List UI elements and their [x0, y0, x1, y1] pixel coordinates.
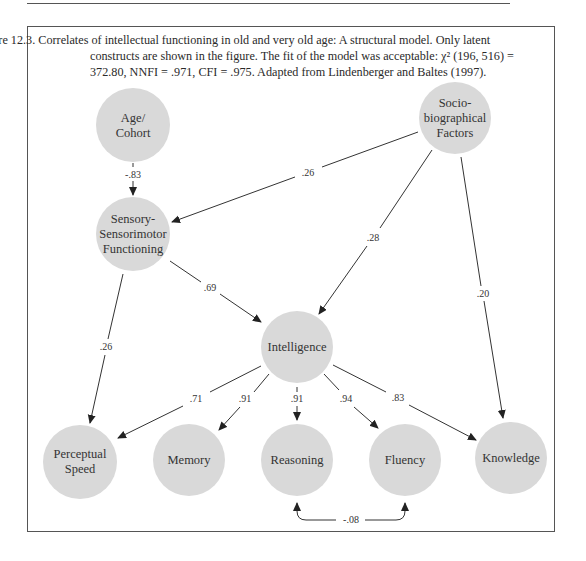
edge-label-intelligence-perceptual: .71: [190, 393, 203, 404]
svg-text:Reasoning: Reasoning: [271, 453, 325, 467]
edge-intelligence-reasoning: .91: [291, 387, 304, 420]
svg-text:Socio-: Socio-: [439, 96, 472, 110]
edge-label-intelligence-reasoning: .91: [291, 393, 304, 404]
edge-label-intelligence-fluency: .94: [340, 393, 353, 404]
edge-socio-knowledge: .20: [461, 157, 503, 418]
node-fluency: Fluency: [369, 424, 441, 496]
structural-model-diagram: -.83 .26 .28 .20 .69 .26: [0, 0, 586, 561]
svg-text:biographical: biographical: [424, 111, 487, 125]
node-knowledge: Knowledge: [475, 422, 547, 494]
node-reasoning: Reasoning: [261, 424, 333, 496]
edge-label-intelligence-memory: .91: [239, 393, 252, 404]
edge-label-age-sensory: -.83: [125, 169, 141, 180]
edge-socio-sensory: .26: [172, 132, 418, 222]
node-age-cohort: Age/ Cohort: [96, 88, 170, 162]
edge-socio-intelligence: .28: [319, 150, 432, 314]
svg-text:Memory: Memory: [167, 453, 211, 467]
node-intelligence: Intelligence: [261, 311, 333, 383]
svg-text:Age/: Age/: [121, 111, 146, 125]
edge-reasoning-fluency-covariance: -.08: [297, 503, 405, 525]
svg-text:Perceptual: Perceptual: [54, 447, 107, 461]
svg-text:Fluency: Fluency: [385, 453, 426, 467]
edge-label-socio-intelligence: .28: [367, 232, 380, 243]
svg-text:Factors: Factors: [437, 126, 474, 140]
svg-text:Cohort: Cohort: [116, 126, 151, 140]
svg-text:Sensorimotor: Sensorimotor: [99, 227, 167, 241]
edge-label-socio-knowledge: .20: [477, 288, 490, 299]
edge-sensory-perceptual: .26: [90, 274, 123, 423]
edge-label-sensory-perceptual: .26: [100, 341, 113, 352]
svg-text:Speed: Speed: [65, 462, 96, 476]
edge-intelligence-fluency: .94: [324, 374, 378, 428]
svg-text:Functioning: Functioning: [103, 242, 164, 256]
edge-label-sensory-intelligence: .69: [204, 282, 217, 293]
edge-intelligence-memory: .91: [219, 374, 269, 430]
nodes: Age/ Cohort Socio- biographical Factors …: [43, 82, 547, 499]
svg-text:Sensory-: Sensory-: [111, 212, 155, 226]
node-perceptual-speed: Perceptual Speed: [43, 425, 117, 499]
edge-label-socio-sensory: .26: [302, 167, 315, 178]
edge-label-intelligence-knowledge: .83: [392, 392, 405, 403]
edge-age-sensory: -.83: [125, 163, 141, 195]
node-memory: Memory: [153, 424, 225, 496]
edge-label-reasoning-fluency: -.08: [343, 514, 359, 525]
node-sensory-sensorimotor-functioning: Sensory- Sensorimotor Functioning: [96, 197, 170, 271]
edge-sensory-intelligence: .69: [170, 261, 261, 322]
svg-text:Knowledge: Knowledge: [482, 451, 540, 465]
node-sociobiographical-factors: Socio- biographical Factors: [419, 82, 491, 154]
svg-text:Intelligence: Intelligence: [268, 340, 327, 354]
